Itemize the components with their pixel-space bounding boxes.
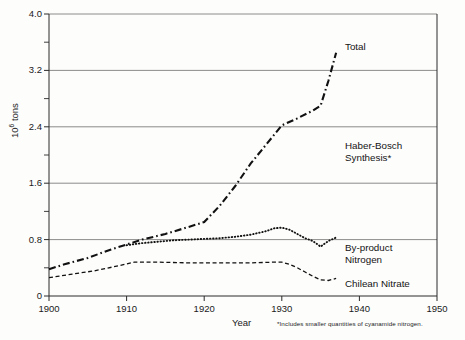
x-tick-label: 1930 (262, 304, 302, 314)
y-tick-label: 0.8 (0, 235, 42, 245)
annotation-chilean-nitrate: Chilean Nitrate (345, 278, 410, 290)
y-axis-title-exponent: 6 (8, 124, 15, 128)
data-series-group (49, 53, 336, 281)
annotation-by-product-line2: Nitrogen (345, 254, 392, 266)
y-tick-label: 2.4 (0, 122, 42, 132)
annotation-by-product-nitrogen: By-product Nitrogen (345, 242, 392, 265)
x-tick-label: 1900 (29, 304, 69, 314)
series-line-by-product-nitrogen (127, 228, 337, 247)
x-tick-label: 1950 (417, 304, 457, 314)
x-tick-label: 1920 (184, 304, 224, 314)
y-axis-title-suffix: tons (9, 103, 20, 124)
annotation-total: Total (345, 41, 366, 53)
x-tick-label: 1940 (339, 304, 379, 314)
chart-footnote: *Includes smaller quantities of cyanamid… (277, 320, 423, 327)
series-line-total (49, 53, 336, 269)
series-line-chilean-nitrate (49, 262, 336, 280)
annotation-by-product-line1: By-product (345, 242, 392, 254)
y-axis-title-prefix: 10 (9, 127, 20, 138)
annotation-haber-bosch-line2: Synthesis* (345, 152, 402, 164)
gridlines-group (49, 14, 437, 240)
y-tick-label: 0 (0, 291, 42, 301)
x-axis-title: Year (232, 317, 251, 328)
y-tick-label: 4.0 (0, 9, 42, 19)
annotation-haber-bosch-line1: Haber-Bosch (345, 140, 402, 152)
x-tick-label: 1910 (107, 304, 147, 314)
y-tick-label: 3.2 (0, 65, 42, 75)
y-axis-title: 106 tons (8, 103, 20, 138)
annotation-haber-bosch-synthesis: Haber-Bosch Synthesis* (345, 140, 402, 163)
nitrogen-production-chart: 00.81.62.43.24.0 19001910192019301940195… (0, 0, 465, 340)
y-tick-label: 1.6 (0, 178, 42, 188)
